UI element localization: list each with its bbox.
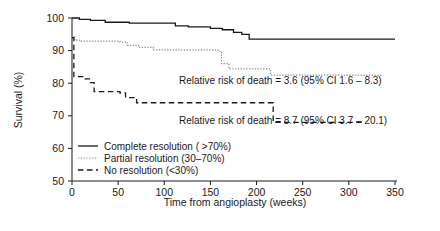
- y-tick-label: 70: [52, 109, 64, 121]
- legend-item-complete-resolution: Complete resolution ( >70%): [78, 141, 231, 152]
- y-tick-label: 80: [52, 77, 64, 89]
- chart-svg: Survival (%) 5060708090100 0501001502002…: [0, 0, 440, 231]
- annotation-risk-partial: Relative risk of death = 3.6 (95% CI 1.6…: [179, 75, 382, 86]
- legend-item-no-resolution: No resolution (<30%): [78, 165, 198, 176]
- legend-label-partial-resolution: Partial resolution (30–70%): [104, 153, 225, 164]
- x-tick-label: 350: [386, 186, 404, 198]
- annotation-risk-none: Relative risk of death = 8.7 (95% CI 3.7…: [179, 115, 387, 126]
- x-tick-label: 300: [340, 186, 358, 198]
- legend-label-complete-resolution: Complete resolution ( >70%): [104, 141, 231, 152]
- y-axis-ticks: 5060708090100: [46, 12, 72, 187]
- series-line-partial-resolution: [72, 36, 381, 75]
- y-axis-label: Survival (%): [12, 72, 24, 129]
- x-axis-label: Time from angioplasty (weeks): [164, 196, 307, 208]
- y-tick-label: 90: [52, 44, 64, 56]
- y-tick-label: 60: [52, 142, 64, 154]
- survival-chart: Survival (%) 5060708090100 0501001502002…: [0, 0, 440, 231]
- y-tick-label: 50: [52, 175, 64, 187]
- y-tick-label: 100: [46, 12, 64, 24]
- series-line-complete-resolution: [72, 18, 395, 39]
- x-tick-label: 50: [112, 186, 124, 198]
- legend: Complete resolution ( >70%) Partial reso…: [78, 141, 231, 176]
- legend-item-partial-resolution: Partial resolution (30–70%): [78, 153, 225, 164]
- legend-label-no-resolution: No resolution (<30%): [104, 165, 198, 176]
- x-tick-label: 0: [69, 186, 75, 198]
